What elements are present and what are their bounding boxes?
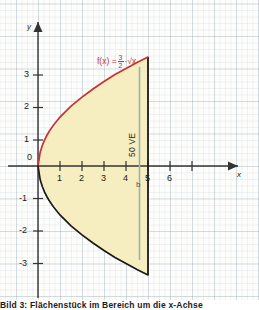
x-tick-label-6: 6	[167, 174, 172, 183]
y-axis-arrow	[34, 22, 43, 32]
figure-caption: Bild 3: Flächenstück im Bereich um die x…	[0, 300, 259, 310]
y-tick-label-neg2: -2	[19, 226, 27, 235]
function-formula-label: f(x) =32·√x	[97, 54, 136, 70]
y-tick-label-2: 2	[24, 102, 29, 111]
y-tick-label-3: 3	[24, 70, 29, 79]
x-axis-label: x	[237, 171, 241, 179]
figure-container: f(x) =32·√x y x 0 1 2 3 4 5 6 3 2 1 -1 -…	[0, 0, 259, 310]
function-prefix: f(x) =	[97, 56, 117, 66]
y-axis-label: y	[27, 23, 31, 31]
y-tick-label-1: 1	[24, 135, 29, 144]
origin-label: 0	[27, 153, 32, 162]
y-tick-label-neg1: -1	[19, 194, 27, 203]
function-radical: ·√x	[125, 56, 137, 66]
area-value-label: 50 VE	[127, 133, 137, 157]
fraction-denominator: 2	[118, 62, 124, 69]
x-tick-label-1: 1	[57, 174, 62, 183]
bound-marker-label: b	[136, 180, 140, 189]
x-tick-label-3: 3	[101, 174, 106, 183]
fraction-numerator: 3	[118, 54, 124, 62]
function-fraction: 32	[118, 54, 124, 70]
y-tick-label-neg3: -3	[19, 259, 27, 268]
x-tick-label-5: 5	[145, 174, 150, 183]
x-tick-label-4: 4	[123, 174, 128, 183]
x-tick-label-2: 2	[79, 174, 84, 183]
